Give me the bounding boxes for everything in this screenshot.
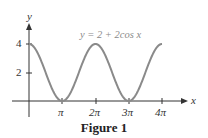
- x-tick-label-pi: π: [58, 106, 64, 118]
- y-tick-label-4: 4: [16, 37, 22, 49]
- x-tick-label-3pi: 3π: [122, 106, 133, 118]
- x-axis-arrow-icon: [181, 98, 188, 104]
- y-tick-label-2: 2: [16, 66, 22, 78]
- y-axis-arrow-icon: [26, 23, 32, 30]
- cosine-curve: [29, 44, 162, 101]
- equation-label: y = 2 + 2cos x: [80, 29, 141, 40]
- x-tick-label-4pi: 4π: [155, 106, 166, 118]
- x-axis-label: x: [191, 94, 196, 106]
- y-axis-label: y: [27, 10, 32, 22]
- figure-caption: Figure 1: [0, 120, 208, 136]
- x-tick-label-2pi: 2π: [89, 106, 100, 118]
